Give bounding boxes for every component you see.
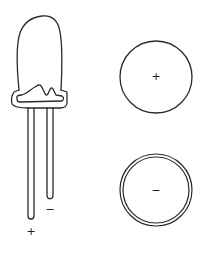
bottom-circle-label: − [151,185,160,196]
led-icon [12,16,67,219]
led-anode-label: + [26,226,35,237]
diagram-canvas [0,0,204,253]
led-cathode-leg [47,108,53,199]
led-inner-rim [17,85,64,102]
led-anode-leg [28,108,34,219]
top-circle-label: + [151,71,160,82]
led-flange [12,90,67,108]
led-cathode-label: − [45,204,54,215]
led-dome [17,16,62,90]
